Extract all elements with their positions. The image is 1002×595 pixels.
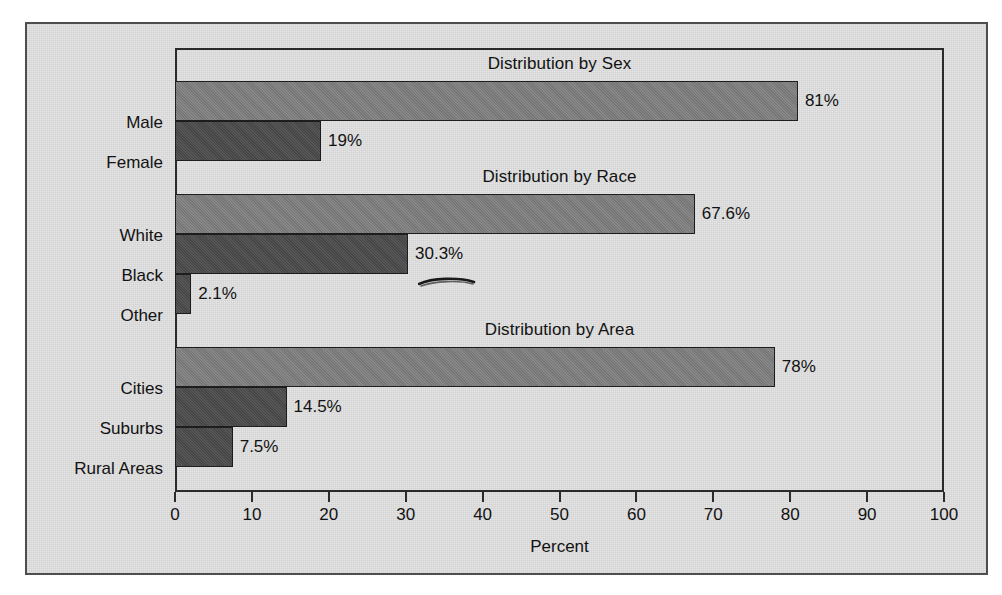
x-axis-title: Percent	[175, 537, 944, 557]
value-label-rural-areas: 7.5%	[240, 438, 279, 455]
x-tick-70	[712, 492, 714, 502]
bar-cities	[175, 347, 775, 387]
value-label-suburbs: 14.5%	[294, 398, 342, 415]
section-title-3: Distribution by Area	[175, 320, 944, 340]
x-tick-100	[943, 492, 945, 502]
x-tick-80	[789, 492, 791, 502]
x-tick-label-100: 100	[930, 506, 958, 523]
x-tick-label-70: 70	[704, 506, 723, 523]
category-label-other: Other	[27, 307, 163, 324]
value-label-cities: 78%	[782, 358, 816, 375]
bar-white	[175, 194, 695, 234]
x-tick-30	[405, 492, 407, 502]
category-label-black: Black	[27, 267, 163, 284]
category-label-rural-areas: Rural Areas	[27, 460, 163, 477]
x-tick-60	[635, 492, 637, 502]
category-label-column: MaleFemaleWhiteBlackOtherCitiesSuburbsRu…	[27, 46, 190, 516]
category-label-cities: Cities	[27, 380, 163, 397]
x-tick-90	[866, 492, 868, 502]
x-tick-label-0: 0	[170, 506, 179, 523]
section-title-1: Distribution by Sex	[175, 54, 944, 74]
bar-female	[175, 121, 321, 161]
bar-suburbs	[175, 387, 287, 427]
x-tick-0	[174, 492, 176, 502]
category-label-white: White	[27, 227, 163, 244]
x-tick-50	[559, 492, 561, 502]
value-label-other: 2.1%	[198, 285, 237, 302]
bar-male	[175, 81, 798, 121]
x-tick-label-10: 10	[242, 506, 261, 523]
category-label-suburbs: Suburbs	[27, 420, 163, 437]
x-tick-label-80: 80	[781, 506, 800, 523]
x-tick-label-90: 90	[858, 506, 877, 523]
x-tick-label-30: 30	[396, 506, 415, 523]
x-tick-label-60: 60	[627, 506, 646, 523]
category-label-male: Male	[27, 114, 163, 131]
value-label-female: 19%	[328, 132, 362, 149]
x-tick-20	[328, 492, 330, 502]
section-title-2: Distribution by Race	[175, 167, 944, 187]
value-label-male: 81%	[805, 92, 839, 109]
x-tick-40	[482, 492, 484, 502]
bar-other	[175, 274, 191, 314]
value-label-black: 30.3%	[415, 245, 463, 262]
bar-black	[175, 234, 408, 274]
x-tick-label-20: 20	[319, 506, 338, 523]
chart-page: MaleFemaleWhiteBlackOtherCitiesSuburbsRu…	[0, 0, 1002, 595]
x-tick-label-40: 40	[473, 506, 492, 523]
figure-frame: MaleFemaleWhiteBlackOtherCitiesSuburbsRu…	[25, 22, 988, 575]
value-label-white: 67.6%	[702, 205, 750, 222]
bar-rural-areas	[175, 427, 233, 467]
category-label-female: Female	[27, 154, 163, 171]
x-tick-label-50: 50	[550, 506, 569, 523]
x-tick-10	[251, 492, 253, 502]
